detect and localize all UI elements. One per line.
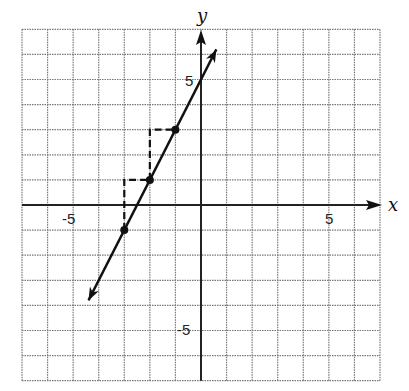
x-tick-label-5: 5: [325, 210, 333, 227]
plotted-line: [88, 49, 216, 300]
line-y-2x-plus-5: [88, 49, 216, 300]
data-point: [120, 226, 128, 234]
y-tick-label-neg5: -5: [177, 321, 190, 338]
x-tick-label-neg5: -5: [62, 210, 75, 227]
y-tick-label-5: 5: [185, 72, 193, 89]
coordinate-plane: y x -5 5 5 -5: [0, 0, 409, 391]
data-point: [171, 126, 179, 134]
x-axis-label: x: [388, 194, 398, 215]
data-point: [146, 176, 154, 184]
y-axis-label: y: [196, 5, 208, 26]
axes: [22, 30, 382, 381]
